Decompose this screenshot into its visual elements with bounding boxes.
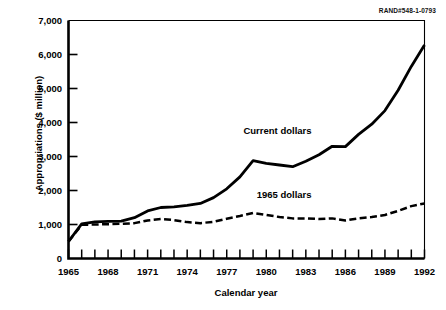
tick-marks-group <box>69 55 425 259</box>
plot-canvas <box>0 0 446 310</box>
y-tick-label: 4,000 <box>6 117 62 128</box>
series-label-current-dollars: Current dollars <box>243 125 311 136</box>
y-tick-label: 5,000 <box>6 83 62 94</box>
y-tick-label: 6,000 <box>6 49 62 60</box>
y-tick-label: 0 <box>6 253 62 264</box>
series-line-1965-dollars <box>69 203 425 241</box>
y-tick-label: 2,000 <box>6 185 62 196</box>
series-line-current-dollars <box>69 45 425 242</box>
axis-spine-left-bottom <box>69 21 425 259</box>
y-tick-label: 3,000 <box>6 151 62 162</box>
series-label-1965-dollars: 1965 dollars <box>257 189 312 200</box>
axis-spine-top-right <box>69 21 425 259</box>
data-series-group <box>69 45 425 242</box>
axes-group <box>69 21 425 259</box>
chart-figure: RAND#548-1-0793 Appropriations ($ millio… <box>0 0 446 310</box>
y-tick-label: 1,000 <box>6 219 62 230</box>
y-tick-label: 7,000 <box>6 15 62 26</box>
x-tick-label: 1992 <box>400 266 446 277</box>
